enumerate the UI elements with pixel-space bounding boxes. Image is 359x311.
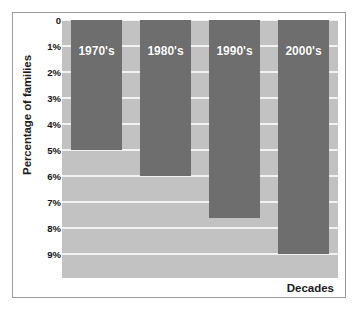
x-axis-title-text: Decades (287, 282, 338, 294)
bar-label: 1970's (71, 44, 122, 58)
y-axis-tick-labels: 01%2%3%4%5%6%7%8%9% (36, 20, 61, 254)
y-axis-tick-label: 3% (47, 93, 61, 104)
chart-figure: Percentage of families 01%2%3%4%5%6%7%8%… (0, 0, 359, 311)
y-axis-tick-label: 0 (56, 15, 61, 26)
y-axis-tick-label: 5% (47, 145, 61, 156)
bar-label: 1980's (140, 44, 191, 58)
plot-area: 1970's1980's1990's2000's (62, 20, 338, 278)
bar-label: 1990's (209, 44, 260, 58)
x-axis-title: Decades (62, 279, 338, 297)
y-axis-tick-label: 4% (47, 119, 61, 130)
bar[interactable] (71, 20, 122, 150)
y-axis-tick-label: 9% (47, 249, 61, 260)
y-axis-tick-label: 8% (47, 223, 61, 234)
y-axis-tick-label: 6% (47, 171, 61, 182)
y-axis-tick-label: 1% (47, 41, 61, 52)
y-axis-tick-label: 7% (47, 197, 61, 208)
bar-label: 2000's (278, 44, 329, 58)
y-axis-tick-label: 2% (47, 67, 61, 78)
